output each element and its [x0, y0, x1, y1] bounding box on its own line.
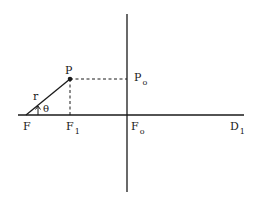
label-r-text: r — [33, 90, 38, 103]
label-f0: Fo — [131, 121, 144, 132]
label-f1-sub: 1 — [75, 127, 80, 136]
label-p0-sub: o — [142, 78, 147, 87]
label-p0: Po — [134, 72, 147, 83]
label-d1-text: D — [230, 120, 239, 133]
label-f0-sub: o — [140, 127, 145, 136]
label-theta-text: θ — [43, 103, 49, 114]
point-p-dot — [68, 77, 73, 82]
label-d1-sub: 1 — [240, 127, 245, 136]
label-f0-text: F — [131, 120, 139, 133]
label-f-text: F — [23, 120, 31, 133]
label-p: P — [65, 65, 72, 76]
label-f: F — [23, 121, 31, 132]
diagram-canvas — [0, 0, 261, 207]
label-p0-text: P — [134, 71, 141, 84]
label-f1-text: F — [66, 120, 74, 133]
label-theta: θ — [43, 104, 49, 114]
label-d1: D1 — [230, 121, 245, 132]
label-f1: F1 — [66, 121, 80, 132]
label-r: r — [33, 91, 38, 102]
diagram: P Po r θ F F1 Fo D1 — [0, 0, 261, 207]
label-p-text: P — [65, 64, 72, 77]
